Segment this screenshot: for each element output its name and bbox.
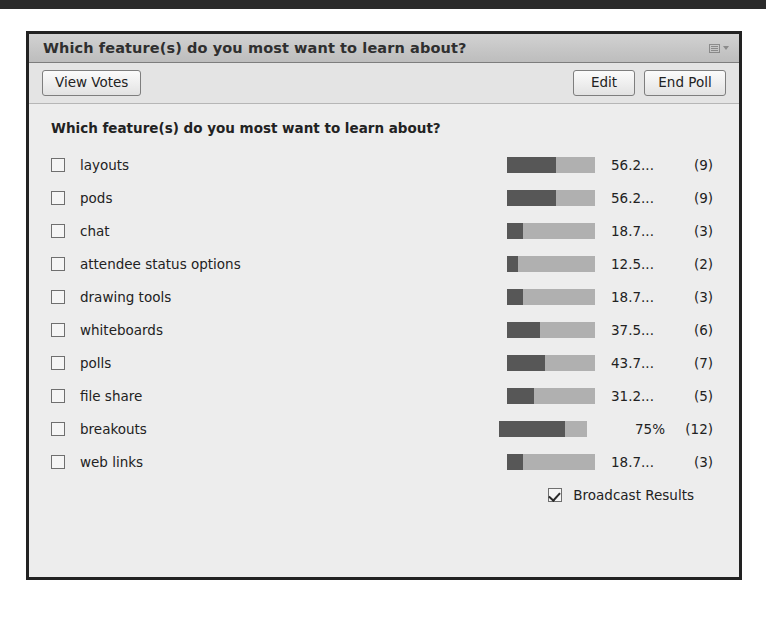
poll-option-row[interactable]: layouts56.2...(9) — [29, 148, 739, 181]
broadcast-results-checkbox[interactable] — [548, 488, 562, 502]
poll-option-label: breakouts — [80, 421, 147, 437]
poll-option-checkbox[interactable] — [51, 422, 65, 436]
result-vote-count: (6) — [673, 322, 713, 338]
poll-option-checkbox[interactable] — [51, 356, 65, 370]
poll-toolbar: View Votes Edit End Poll — [29, 63, 739, 104]
result-bar-track — [507, 157, 595, 173]
result-bar-track — [507, 289, 595, 305]
result-percent: 31.2... — [611, 388, 673, 404]
result-bar-track — [507, 388, 595, 404]
result-percent: 18.7... — [611, 223, 673, 239]
poll-option-label: layouts — [80, 157, 129, 173]
result-vote-count: (2) — [673, 256, 713, 272]
poll-option-checkbox[interactable] — [51, 323, 65, 337]
result-bar-track — [499, 421, 587, 437]
result-percent: 75% — [603, 421, 673, 437]
result-vote-count: (9) — [673, 190, 713, 206]
end-poll-button[interactable]: End Poll — [644, 70, 726, 96]
result-percent: 18.7... — [611, 289, 673, 305]
result-vote-count: (3) — [673, 289, 713, 305]
result-percent: 18.7... — [611, 454, 673, 470]
result-vote-count: (3) — [673, 454, 713, 470]
chevron-down-icon — [723, 46, 729, 50]
poll-option-row[interactable]: web links18.7...(3) — [29, 445, 739, 478]
result-bar-track — [507, 322, 595, 338]
pod-options-menu-button[interactable] — [709, 44, 729, 53]
poll-option-row[interactable]: drawing tools18.7...(3) — [29, 280, 739, 313]
poll-option-checkbox[interactable] — [51, 257, 65, 271]
broadcast-results-row[interactable]: Broadcast Results — [29, 487, 739, 503]
poll-title: Which feature(s) do you most want to lea… — [43, 40, 709, 56]
poll-option-label: web links — [80, 454, 143, 470]
result-percent: 37.5... — [611, 322, 673, 338]
view-votes-button[interactable]: View Votes — [42, 70, 141, 96]
result-percent: 56.2... — [611, 190, 673, 206]
result-bar-fill — [507, 289, 523, 305]
result-vote-count: (7) — [673, 355, 713, 371]
poll-option-row[interactable]: file share31.2...(5) — [29, 379, 739, 412]
poll-options-list: layouts56.2...(9)pods56.2...(9)chat18.7.… — [29, 148, 739, 478]
result-bar-fill — [499, 421, 565, 437]
result-bar-fill — [507, 322, 540, 338]
result-bar-fill — [507, 355, 545, 371]
poll-titlebar: Which feature(s) do you most want to lea… — [29, 34, 739, 63]
result-bar-fill — [507, 454, 523, 470]
result-bar-fill — [507, 223, 523, 239]
poll-option-checkbox[interactable] — [51, 191, 65, 205]
result-bar-fill — [507, 157, 556, 173]
poll-body: Which feature(s) do you most want to lea… — [29, 104, 739, 577]
result-bar-fill — [507, 256, 518, 272]
poll-option-checkbox[interactable] — [51, 389, 65, 403]
poll-question: Which feature(s) do you most want to lea… — [51, 120, 739, 136]
result-vote-count: (5) — [673, 388, 713, 404]
edit-button[interactable]: Edit — [573, 70, 635, 96]
poll-option-label: whiteboards — [80, 322, 163, 338]
result-vote-count: (3) — [673, 223, 713, 239]
result-vote-count: (12) — [673, 421, 713, 437]
result-bar-fill — [507, 388, 534, 404]
poll-option-checkbox[interactable] — [51, 158, 65, 172]
poll-option-checkbox[interactable] — [51, 224, 65, 238]
result-bar-fill — [507, 190, 556, 206]
poll-option-label: drawing tools — [80, 289, 171, 305]
poll-option-label: polls — [80, 355, 111, 371]
poll-panel: Which feature(s) do you most want to lea… — [26, 31, 742, 580]
poll-option-checkbox[interactable] — [51, 455, 65, 469]
broadcast-results-label: Broadcast Results — [573, 487, 694, 503]
result-percent: 43.7... — [611, 355, 673, 371]
result-vote-count: (9) — [673, 157, 713, 173]
poll-option-row[interactable]: whiteboards37.5...(6) — [29, 313, 739, 346]
result-percent: 12.5... — [611, 256, 673, 272]
result-bar-track — [507, 454, 595, 470]
poll-option-label: attendee status options — [80, 256, 241, 272]
poll-option-label: file share — [80, 388, 142, 404]
screen-top-band — [0, 0, 766, 9]
poll-option-row[interactable]: breakouts75%(12) — [29, 412, 739, 445]
poll-option-label: chat — [80, 223, 110, 239]
result-bar-track — [507, 190, 595, 206]
list-menu-icon — [709, 44, 720, 53]
poll-option-row[interactable]: pods56.2...(9) — [29, 181, 739, 214]
result-percent: 56.2... — [611, 157, 673, 173]
poll-option-checkbox[interactable] — [51, 290, 65, 304]
poll-option-label: pods — [80, 190, 112, 206]
result-bar-track — [507, 223, 595, 239]
result-bar-track — [507, 355, 595, 371]
poll-option-row[interactable]: attendee status options12.5...(2) — [29, 247, 739, 280]
result-bar-track — [507, 256, 595, 272]
poll-option-row[interactable]: polls43.7...(7) — [29, 346, 739, 379]
poll-option-row[interactable]: chat18.7...(3) — [29, 214, 739, 247]
